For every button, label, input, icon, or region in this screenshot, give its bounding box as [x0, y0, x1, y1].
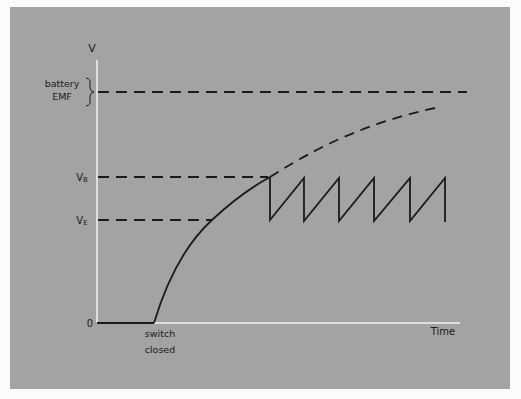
x-axis-label: Time	[430, 326, 455, 337]
charging-curve	[154, 177, 270, 323]
charging-curve-asymptotic	[270, 108, 435, 177]
switch-closed-label-line1: switch	[145, 328, 175, 339]
switch-closed-label-line2: closed	[145, 344, 176, 355]
sawtooth-waveform	[270, 177, 445, 222]
battery-emf-label-line2: EMF	[52, 91, 72, 102]
voltage-time-diagram: V battery EMF VB VE 0 switch closed Time	[0, 0, 521, 399]
origin-label: 0	[87, 318, 93, 329]
ve-label: VE	[76, 215, 87, 227]
brace-icon	[86, 78, 94, 106]
y-axis-label: V	[88, 42, 96, 55]
battery-emf-label-line1: battery	[45, 78, 80, 89]
vb-label: VB	[76, 172, 88, 184]
